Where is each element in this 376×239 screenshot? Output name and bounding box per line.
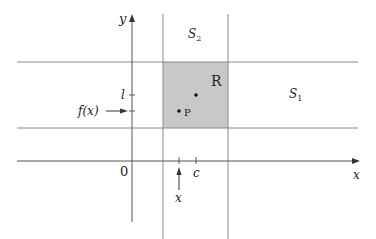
strip-s2-label: S2 [188,27,201,43]
x-up-arrow-icon [177,167,182,175]
fx-label: f(x) [77,104,99,118]
point-p [177,109,181,113]
origin-label: 0 [120,164,128,179]
tick-c-label: c [193,166,200,180]
point-center [194,93,198,97]
fx-arrow-icon [120,109,128,114]
diagram-svg: y x 0 R S2 S1 P l c f(x) x [0,0,376,239]
strip-s1-label: S1 [289,87,302,103]
y-axis-arrow-icon [129,14,135,22]
tick-l-label: l [121,88,125,102]
y-axis-label: y [118,11,127,26]
x-arrow-label: x [175,191,182,205]
x-axis-label: x [353,168,360,182]
diagram-canvas: y x 0 R S2 S1 P l c f(x) x [0,0,376,239]
point-p-label: P [184,107,191,118]
rect-r-label: R [211,73,222,89]
x-axis-arrow-icon [352,158,360,164]
